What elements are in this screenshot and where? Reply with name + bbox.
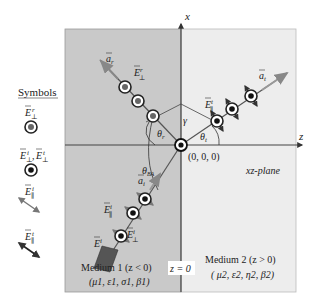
svg-text:∥: ∥ — [31, 192, 34, 200]
interface-label: z = 0 — [169, 263, 191, 274]
medium-2-params: ( μ2, ε2, η2, β2) — [211, 269, 275, 281]
svg-text:∥: ∥ — [31, 237, 34, 245]
medium-1-name: Medium 1 (z < 0) — [81, 262, 152, 274]
svg-text:⊥: ⊥ — [31, 113, 38, 121]
svg-text:⊥: ⊥ — [42, 156, 49, 164]
origin-dot — [178, 142, 183, 147]
medium-2-name: Medium 2 (z > 0) — [205, 254, 276, 266]
legend — [18, 98, 58, 257]
medium-1-params: (μ1, ε1, σ1, β1) — [89, 276, 150, 288]
x-axis-label: x — [184, 10, 190, 22]
legend-incident-par-icon — [19, 198, 39, 212]
z-axis-label: z — [298, 130, 304, 142]
plane-wave-incidence-diagram: Symbols Er⊥ Ei⊥ , Et⊥ Ei∥ Et∥ x z (0, 0,… — [0, 0, 316, 307]
svg-text:,: , — [32, 150, 35, 161]
origin-label: (0, 0, 0) — [188, 151, 220, 163]
legend-title: Symbols — [18, 86, 57, 98]
medium-1-region — [65, 29, 181, 292]
plane-label: xz-plane — [245, 165, 280, 176]
legend-transmitted-par-icon — [19, 243, 39, 257]
